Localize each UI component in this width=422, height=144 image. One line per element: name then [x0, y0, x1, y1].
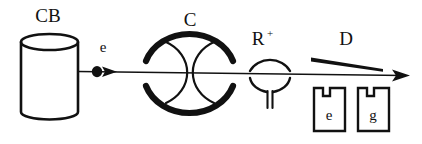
detector-wedge-shape: [311, 58, 383, 72]
detector-box-electron-label: e: [326, 107, 333, 123]
detector-wedge: [311, 58, 383, 72]
beam-axis: [78, 70, 410, 82]
diagram-canvas: e g CB e C R + D: [0, 0, 422, 144]
cathode-beam-source: [21, 34, 78, 120]
label-detector: D: [339, 28, 353, 49]
detector-box-gamma: g: [358, 88, 389, 131]
apparatus-diagram: e g CB e C R + D: [0, 0, 422, 144]
target-funnel-arm-right: [273, 78, 290, 92]
detector-box-gamma-label: g: [369, 107, 377, 123]
cylinder-body: [21, 42, 78, 120]
electron-dot: [92, 66, 102, 77]
condenser-outer-arc-bottom: [146, 86, 233, 113]
target-funnel-arm-left: [250, 78, 267, 92]
label-reaction-target: R: [252, 28, 265, 49]
reaction-target: [250, 60, 290, 108]
label-reaction-target-superscript: +: [267, 27, 273, 39]
label-cathode-beam: CB: [35, 5, 60, 26]
label-condenser: C: [184, 9, 197, 30]
beam-axis-line: [78, 72, 404, 76]
detector-box-electron: e: [314, 88, 345, 131]
label-electron: e: [100, 39, 107, 55]
cylinder-top-ellipse: [21, 34, 78, 50]
condenser-outer-arc-top: [146, 34, 233, 61]
target-dome-arc: [250, 60, 290, 71]
